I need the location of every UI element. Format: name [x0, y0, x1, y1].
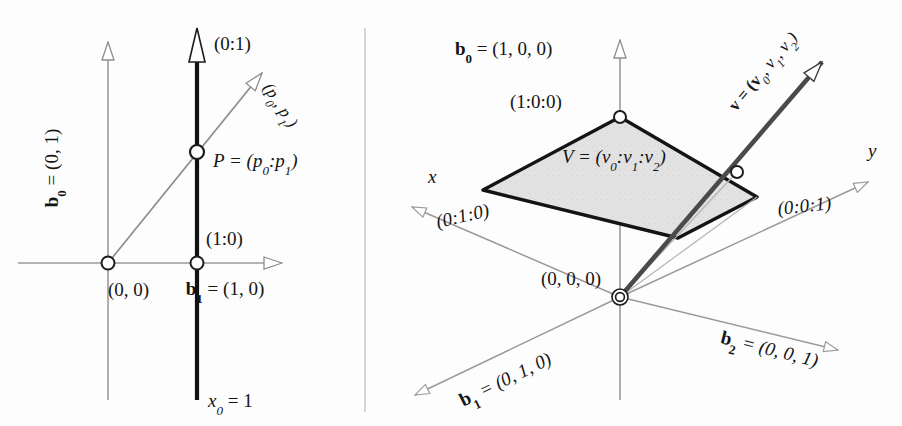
left-b0-symbol: b — [41, 197, 62, 208]
left-point-one-zero — [191, 257, 204, 270]
right-label-b2: b2 = (0, 0, 1) — [717, 326, 820, 377]
right-label-vector-v: v = (v0, v1, v2) — [724, 28, 805, 118]
right-label-axis-y: y — [866, 140, 877, 161]
right-label-b1-projective: (0:1:0) — [434, 199, 491, 233]
left-panel-graphics — [18, 28, 282, 400]
left-label-line-equation: x0 = 1 — [207, 390, 253, 418]
figure-canvas: b0 = (0, 1) (0:1) (p0, p1) P = (p0:p1) (… — [0, 0, 902, 426]
right-label-origin: (0, 0, 0) — [541, 268, 601, 290]
right-point-v — [731, 166, 743, 178]
right-origin-point-inner — [616, 293, 625, 302]
left-affine-line-arrowhead — [189, 28, 205, 62]
left-label-one-zero: (1:0) — [206, 228, 243, 250]
right-label-b0-projective: (1:0:0) — [510, 91, 562, 113]
right-affine-plane — [483, 117, 757, 238]
left-label-point-p: P = (p0:p1) — [212, 150, 298, 178]
right-label-b2-projective: (0:0:1) — [776, 192, 832, 220]
right-label-axis-x: x — [427, 166, 437, 187]
left-panel-labels: b0 = (0, 1) (0:1) (p0, p1) P = (p0:p1) (… — [41, 33, 302, 418]
left-label-point-at-infinity: (0:1) — [214, 33, 251, 55]
svg-text:b0 = (0, 1): b0 = (0, 1) — [41, 129, 69, 207]
right-point-one-zero-zero — [614, 111, 626, 123]
left-label-origin: (0, 0) — [108, 279, 149, 301]
left-point-p — [190, 145, 204, 159]
svg-text:(p0, p1): (p0, p1) — [254, 79, 302, 134]
right-label-b0: b0 = (1, 0, 0) — [455, 38, 552, 66]
figure-root: b0 = (0, 1) (0:1) (p0, p1) P = (p0:p1) (… — [0, 0, 902, 426]
left-b0-equation: = (0, 1) — [41, 129, 63, 190]
right-label-b1: b1 = (0, 1, 0) — [456, 348, 558, 416]
left-origin-point — [102, 257, 115, 270]
